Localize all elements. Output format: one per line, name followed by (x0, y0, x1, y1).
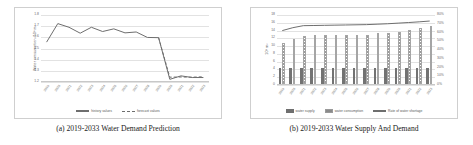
x-tick-label: 2031 (177, 84, 184, 92)
x-tick-label: 2028 (143, 84, 150, 92)
chart-a-plot-area: 1.21.31.41.51.61.71.8 201920202021202220… (41, 15, 209, 82)
gridline (41, 82, 209, 83)
y-tick-label: 12 (271, 37, 275, 40)
x-tick-label: 2020 (289, 87, 296, 95)
chart-b-y-axis-label: 10⁸ m³ (265, 36, 269, 62)
legend-label-water-consumption: water consumption (335, 109, 363, 113)
chart-b-frame: 024681012141618 0%10%20%30%40%50%60%70%8… (250, 7, 458, 119)
chart-b-line-svg (277, 15, 435, 85)
x-tick-label: 2023 (87, 84, 94, 92)
x-tick-label: 2026 (352, 87, 359, 95)
x-tick-label: 2032 (415, 87, 422, 95)
x-tick-label: 2024 (98, 84, 105, 92)
legend-label-forecast: forecast values (137, 109, 160, 113)
y-tick-label: 50% (437, 40, 444, 43)
panel-b: 024681012141618 0%10%20%30%40%50%60%70%8… (236, 0, 472, 145)
legend-item-forecast: forecast values (122, 109, 160, 113)
legend-item-water-supply: water supply (286, 109, 315, 113)
y-tick-label: 10% (437, 75, 444, 78)
chart-a-y-axis-label: Water consumption /10⁸ m³ (33, 18, 37, 78)
x-tick-label: 2031 (404, 87, 411, 95)
x-tick-label: 2030 (394, 87, 401, 95)
legend-label-shortage-rate: Rate of water shortage (388, 109, 422, 113)
x-tick-label: 2029 (154, 84, 161, 92)
x-tick-label: 2028 (373, 87, 380, 95)
y-tick-label: 2 (273, 76, 275, 79)
legend-label-water-supply: water supply (296, 109, 315, 113)
panel-a: 1.21.31.41.51.61.71.8 201920202021202220… (0, 0, 236, 145)
x-tick-label: 2026 (121, 84, 128, 92)
x-tick-label: 2024 (331, 87, 338, 95)
dashed-line-icon (122, 111, 135, 112)
legend-item-history: history values (76, 109, 112, 113)
x-tick-label: 2020 (54, 84, 61, 92)
x-tick-label: 2030 (166, 84, 173, 92)
gridline (277, 85, 435, 86)
history-line (47, 24, 204, 80)
x-tick-label: 2019 (42, 84, 49, 92)
y-tick-label: 40% (437, 48, 444, 51)
x-tick-label: 2025 (110, 84, 117, 92)
y-tick-label: 30% (437, 57, 444, 60)
y-tick-label: 80% (437, 13, 444, 16)
y-tick-label: 18 (271, 13, 275, 16)
y-tick-label: 0% (437, 83, 442, 86)
x-tick-label: 2025 (341, 87, 348, 95)
y-tick-label: 16 (271, 21, 275, 24)
x-tick-label: 2022 (310, 87, 317, 95)
x-tick-label: 2021 (299, 87, 306, 95)
x-tick-label: 2019 (278, 87, 285, 95)
x-tick-label: 2033 (426, 87, 433, 95)
chart-a-legend: history values forecast values (15, 109, 221, 113)
caption-a: (a) 2019-2033 Water Demand Prediction (56, 124, 180, 133)
x-tick-label: 2023 (320, 87, 327, 95)
shortage-rate-line (282, 21, 429, 31)
y-tick-label: 20% (437, 66, 444, 69)
chart-b-plot-area: 024681012141618 0%10%20%30%40%50%60%70%8… (277, 15, 435, 85)
y-tick-label: 1.2 (34, 80, 39, 83)
x-tick-label: 2027 (362, 87, 369, 95)
x-tick-label: 2022 (76, 84, 83, 92)
solid-line-icon (76, 110, 89, 111)
solid-bar-icon (286, 109, 294, 112)
y-tick-label: 14 (271, 29, 275, 32)
y-tick-label: 70% (437, 22, 444, 25)
y-tick-label: 0 (273, 83, 275, 86)
chart-a-frame: 1.21.31.41.51.61.71.8 201920202021202220… (14, 7, 222, 119)
caption-b: (b) 2019-2033 Water Supply And Demand (290, 124, 419, 133)
x-tick-label: 2029 (383, 87, 390, 95)
x-tick-label: 2033 (199, 84, 206, 92)
y-tick-label: 4 (273, 68, 275, 71)
hatched-bar-icon (325, 109, 333, 112)
solid-line-icon (373, 110, 386, 111)
x-tick-label: 2032 (188, 84, 195, 92)
y-tick-label: 10 (271, 44, 275, 47)
y-tick-label: 6 (273, 60, 275, 63)
legend-item-shortage-rate: Rate of water shortage (373, 109, 422, 113)
y-tick-label: 60% (437, 31, 444, 34)
figure-container: 1.21.31.41.51.61.71.8 201920202021202220… (0, 0, 473, 145)
x-tick-label: 2027 (132, 84, 139, 92)
legend-label-history: history values (91, 109, 112, 113)
chart-b-legend: water supply water consumption Rate of w… (251, 109, 457, 113)
legend-item-water-consumption: water consumption (325, 109, 363, 113)
y-tick-label: 1.8 (34, 13, 39, 16)
chart-a-series-svg (41, 15, 209, 82)
y-tick-label: 8 (273, 52, 275, 55)
x-tick-label: 2021 (65, 84, 72, 92)
forecast-line (159, 38, 204, 78)
